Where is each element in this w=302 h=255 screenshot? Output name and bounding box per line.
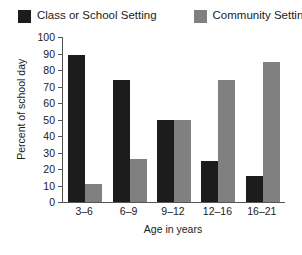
- y-axis-tick-label: 60: [29, 98, 55, 109]
- y-axis-tick-label: 70: [29, 82, 55, 93]
- x-axis-tick-labels: 3–66–99–1212–1616–21: [62, 206, 284, 217]
- bar-group: [152, 37, 196, 202]
- y-axis-title: Percent of school day: [16, 39, 27, 179]
- bar: [174, 120, 191, 203]
- bar-chart: Percent of school day 100908070605040302…: [0, 28, 302, 255]
- x-axis-tick-label: 16–21: [240, 206, 284, 217]
- bar: [130, 159, 147, 202]
- y-axis-tick-label: 90: [29, 49, 55, 60]
- y-axis-tick-label: 40: [29, 131, 55, 142]
- bar: [246, 176, 263, 202]
- bar: [218, 80, 235, 202]
- bar: [263, 62, 280, 202]
- bar: [85, 184, 102, 202]
- legend-swatch-community-setting: [194, 10, 207, 23]
- bar-group: [107, 37, 151, 202]
- bar-group: [241, 37, 285, 202]
- chart-legend: Class or School Setting Community Settin…: [0, 6, 302, 26]
- y-axis-tick-label: 80: [29, 65, 55, 76]
- bar: [113, 80, 130, 202]
- y-axis-tick-label: 0: [29, 197, 55, 208]
- y-axis-tick-label: 100: [29, 32, 55, 43]
- x-axis-tick-label: 6–9: [106, 206, 150, 217]
- legend-entry-community-setting: Community Setting: [194, 10, 302, 23]
- y-axis-tick: 0: [58, 202, 63, 203]
- legend-label-community-setting: Community Setting: [213, 10, 302, 22]
- bar: [201, 161, 218, 202]
- legend-label-class-or-school-setting: Class or School Setting: [37, 10, 157, 22]
- bar: [68, 55, 85, 202]
- y-axis-tick-label: 20: [29, 164, 55, 175]
- y-axis-tick-label: 10: [29, 181, 55, 192]
- bar-groups: [63, 37, 285, 202]
- legend-swatch-class-or-school-setting: [18, 10, 31, 23]
- bar-group: [63, 37, 107, 202]
- legend-entry-class-or-school-setting: Class or School Setting: [18, 10, 157, 23]
- plot-area: 1009080706050403020100: [62, 37, 285, 203]
- x-axis-tick-label: 9–12: [151, 206, 195, 217]
- bar: [157, 120, 174, 203]
- x-axis-tick-label: 12–16: [195, 206, 239, 217]
- x-axis-title: Age in years: [62, 224, 284, 235]
- x-axis-tick-label: 3–6: [62, 206, 106, 217]
- y-axis-tick-label: 50: [29, 115, 55, 126]
- y-axis-tick-label: 30: [29, 148, 55, 159]
- bar-group: [196, 37, 240, 202]
